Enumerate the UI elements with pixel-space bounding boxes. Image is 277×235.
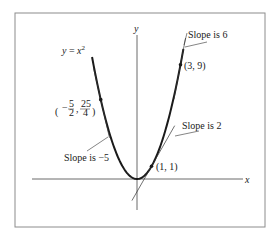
- point-label-three-nine: (3, 9): [184, 60, 206, 72]
- point-label-neg-five-halves: ( − 5 2 , 25 4 ): [55, 98, 95, 118]
- slope-label-2: Slope is 2: [182, 120, 221, 131]
- svg-text:(: (: [55, 106, 59, 118]
- slope-arrow-6: [185, 42, 207, 47]
- slope-leader-6: [184, 33, 187, 45]
- point-one-one-dot: [150, 165, 154, 169]
- tangent-line-slope-neg5: [94, 68, 110, 138]
- slope-label-6: Slope is 6: [188, 29, 227, 40]
- point-neg-five-halves-dot: [99, 98, 103, 102]
- parabola-tangent-figure: x y y = x2 ( − 5 2 , 25 4 ) (1, 1): [0, 0, 277, 235]
- svg-text:,: ,: [76, 103, 79, 114]
- svg-text:4: 4: [83, 107, 88, 118]
- slope-arrow-2: [175, 131, 199, 136]
- svg-text:−: −: [62, 102, 68, 113]
- x-axis-label: x: [244, 174, 250, 185]
- point-label-one-one: (1, 1): [156, 161, 178, 173]
- y-axis-label: y: [133, 23, 139, 34]
- svg-text:): ): [92, 106, 95, 118]
- point-three-nine-dot: [179, 63, 183, 67]
- slope-label-neg5: Slope is −5: [64, 152, 109, 163]
- slope-arrow-neg5: [87, 137, 108, 151]
- function-label: y = x2: [61, 44, 86, 56]
- figure-frame: [15, 13, 265, 227]
- svg-text:2: 2: [69, 107, 74, 118]
